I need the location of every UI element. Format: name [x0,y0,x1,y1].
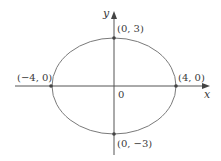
point-left-label: (−4, 0) [17,72,52,83]
point-right [174,84,178,88]
point-top-label: (0, 3) [117,23,144,34]
x-axis-label: x [204,88,211,101]
point-top [112,36,116,40]
point-bottom [112,132,116,136]
ellipse-diagram: y x 0 (0, 3) (0, −3) (−4, 0) (4, 0) [0,0,221,161]
point-left [49,84,53,88]
y-axis-label: y [102,7,110,20]
point-bottom-label: (0, −3) [117,138,152,149]
origin-label: 0 [118,89,124,100]
y-axis-arrow-icon [111,11,117,19]
point-right-label: (4, 0) [178,72,205,83]
